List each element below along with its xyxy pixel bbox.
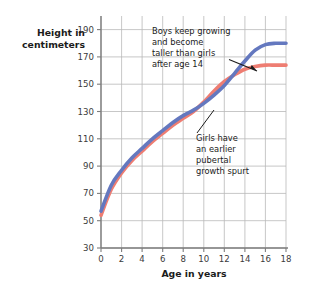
x-tick-label: 14 <box>239 254 250 264</box>
boys-annotation-line3: taller than girls <box>152 48 215 58</box>
x-tick-label: 0 <box>98 254 103 264</box>
girls-annotation-line1: Girls have <box>196 133 238 143</box>
x-tick-label: 18 <box>281 254 292 264</box>
chart-svg: 190 170 150 130 110 90 70 50 30 0 2 4 6 … <box>0 0 309 284</box>
y-tick-label: 90 <box>83 161 94 171</box>
y-tick-label: 70 <box>83 188 94 198</box>
x-tick-label: 4 <box>139 254 144 264</box>
boys-annotation-line2: and become <box>152 37 203 47</box>
y-tick-label: 30 <box>83 243 94 253</box>
x-axis-title: Age in years <box>161 268 227 279</box>
y-axis-title-line2: centimeters <box>22 39 85 50</box>
girls-annotation-line4: growth spurt <box>196 166 250 176</box>
y-tick-label: 150 <box>78 79 94 89</box>
x-tick-label: 10 <box>198 254 209 264</box>
x-tick-label: 12 <box>219 254 230 264</box>
x-tick-label: 8 <box>180 254 185 264</box>
y-tick-label: 170 <box>78 52 94 62</box>
y-tick-label: 110 <box>78 134 94 144</box>
girls-annotation-line2: an earlier <box>196 144 236 154</box>
boys-annotation-line1: Boys keep growing <box>152 26 230 36</box>
y-tick-label: 130 <box>78 107 94 117</box>
growth-chart: 190 170 150 130 110 90 70 50 30 0 2 4 6 … <box>0 0 309 284</box>
x-tick-label: 6 <box>160 254 165 264</box>
x-tick-label: 16 <box>260 254 271 264</box>
y-tick-label: 50 <box>83 216 94 226</box>
y-axis-title-line1: Height in <box>37 27 85 38</box>
x-tick-label: 2 <box>119 254 124 264</box>
girls-annotation-line3: pubertal <box>196 155 231 165</box>
boys-annotation-line4: after age 14 <box>152 59 203 69</box>
